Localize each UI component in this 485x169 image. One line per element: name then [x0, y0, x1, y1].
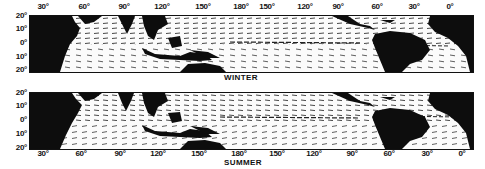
lon-label: 0°: [446, 3, 453, 11]
lon-label: 30°: [37, 150, 48, 158]
lon-label: 90°: [114, 150, 125, 158]
lon-label: 90°: [118, 3, 129, 11]
lon-label: 120°: [297, 3, 312, 11]
lon-label: 0°: [458, 150, 465, 158]
summer-map-panel: [29, 92, 474, 150]
lon-label: 90°: [346, 150, 357, 158]
lon-label: 150°: [191, 150, 206, 158]
lon-label: 120°: [154, 3, 169, 11]
lon-label: 60°: [78, 3, 89, 11]
summer-map: [30, 93, 473, 149]
lat-label: 20°: [0, 144, 27, 152]
lon-label: 30°: [37, 3, 48, 11]
lon-label: 60°: [383, 150, 394, 158]
lon-label: 180°: [233, 3, 248, 11]
lon-label: 30°: [421, 150, 432, 158]
lon-label: 60°: [371, 3, 382, 11]
lat-label: 0°: [0, 39, 27, 47]
summer-label: SUMMER: [224, 158, 262, 167]
winter-label: WINTER: [224, 73, 258, 82]
lat-label: 10°: [0, 53, 27, 61]
lon-label: 150°: [195, 3, 210, 11]
lat-label: 0°: [0, 116, 27, 124]
lon-label: 120°: [306, 150, 321, 158]
lon-label: 30°: [408, 3, 419, 11]
lon-label: 120°: [150, 150, 165, 158]
lon-label: 90°: [332, 3, 343, 11]
lat-label: 20°: [0, 66, 27, 74]
lon-label: 60°: [75, 150, 86, 158]
lat-label: 20°: [0, 12, 27, 20]
winter-map-panel: [29, 15, 474, 73]
lat-label: 10°: [0, 25, 27, 33]
lat-label: 10°: [0, 102, 27, 110]
lat-label: 20°: [0, 89, 27, 97]
winter-map: [30, 16, 473, 72]
lat-label: 10°: [0, 130, 27, 138]
lon-label: 150°: [259, 3, 274, 11]
lon-label: 180°: [231, 150, 246, 158]
lon-label: 150°: [269, 150, 284, 158]
